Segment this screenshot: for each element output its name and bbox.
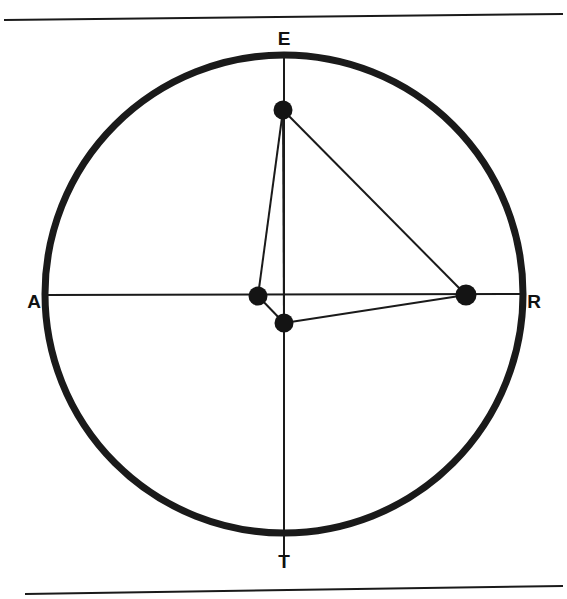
chord-upper-to-lower [283,110,284,323]
node-right [456,285,477,306]
figure-root: E A R T [0,0,567,599]
vertex-label-e: E [278,28,291,49]
node-upper [274,101,293,120]
bottom-rule [25,586,563,594]
node-lower [275,314,294,333]
chord-lower-to-right [284,295,466,323]
node-center [249,287,268,306]
vertex-label-r: R [527,291,541,312]
chord-upper-to-right [283,110,466,295]
vertex-label-a: A [27,291,41,312]
top-rule [4,14,563,20]
vertex-label-t: T [278,551,290,572]
chord-upper-to-center [258,110,283,296]
figure-canvas: E A R T [0,0,567,599]
